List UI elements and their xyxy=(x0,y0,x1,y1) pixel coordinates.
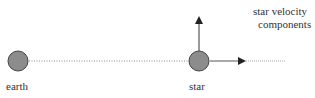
earth-circle xyxy=(8,51,28,71)
star-label: star xyxy=(189,80,205,93)
earth-label: earth xyxy=(6,80,28,93)
star-circle xyxy=(189,51,209,71)
velocity-label-line1: star velocity xyxy=(253,5,307,18)
velocity-label-line2: components xyxy=(258,18,311,31)
